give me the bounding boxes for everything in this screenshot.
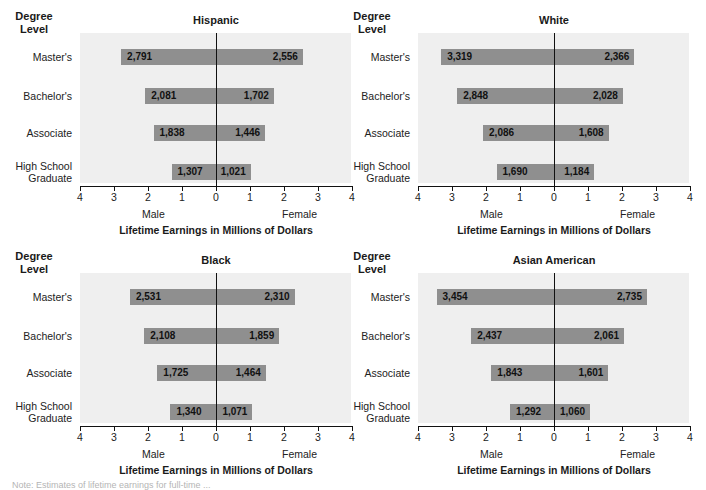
bar-male: 2,437 (471, 328, 554, 344)
category-label: Master's (0, 51, 72, 64)
x-tick-label: 0 (544, 431, 564, 443)
bar-male: 3,319 (441, 49, 554, 65)
panel-title: Black (156, 254, 276, 266)
x-tick-label: 0 (206, 431, 226, 443)
x-tick-label: 1 (172, 191, 192, 203)
x-tick-label: 1 (240, 191, 260, 203)
zero-line (216, 273, 217, 427)
x-tick-label: 1 (240, 431, 260, 443)
x-axis-title: Lifetime Earnings in Millions of Dollars (424, 224, 684, 236)
category-label-line: Associate (0, 367, 72, 380)
bar-female: 1,060 (554, 404, 590, 420)
male-label: Male (480, 208, 503, 220)
category-label: High SchoolGraduate (0, 160, 72, 185)
category-label-line: Bachelor's (0, 90, 72, 103)
bar-male: 2,081 (145, 88, 216, 104)
category-label: Associate (338, 127, 410, 140)
bar-female: 2,028 (554, 88, 623, 104)
category-label: Bachelor's (338, 330, 410, 343)
x-tick-label: 3 (104, 191, 124, 203)
category-label: Master's (338, 51, 410, 64)
category-label-line: Associate (338, 367, 410, 380)
category-label-line: Graduate (0, 172, 72, 185)
bar-male: 1,838 (154, 125, 216, 141)
value-label-female: 1,060 (560, 404, 585, 420)
value-label-male: 2,086 (489, 125, 514, 141)
bar-male: 1,690 (497, 164, 554, 180)
chart-panel-white: DegreeLevelWhiteMaster'sBachelor'sAssoci… (338, 0, 691, 235)
category-label: Associate (0, 127, 72, 140)
y-axis-title-line: Degree (350, 250, 394, 263)
x-tick-label: 1 (578, 431, 598, 443)
x-tick-label: 1 (172, 431, 192, 443)
x-axis-title: Lifetime Earnings in Millions of Dollars (86, 464, 346, 476)
bar-female: 2,556 (216, 49, 303, 65)
value-label-male: 1,690 (503, 164, 528, 180)
bar-female: 1,446 (216, 125, 265, 141)
value-label-female: 2,735 (617, 289, 642, 305)
category-label-line: Master's (338, 291, 410, 304)
value-label-female: 1,608 (579, 125, 604, 141)
bar-female: 1,184 (554, 164, 594, 180)
value-label-male: 1,843 (497, 365, 522, 381)
value-label-female: 2,556 (273, 49, 298, 65)
y-axis-title-line: Degree (12, 250, 56, 263)
value-label-female: 1,021 (221, 164, 246, 180)
value-label-female: 2,366 (604, 49, 629, 65)
category-label: Master's (338, 291, 410, 304)
category-label: Bachelor's (0, 90, 72, 103)
bar-female: 1,859 (216, 328, 279, 344)
panel-title: White (494, 14, 614, 26)
bar-male: 1,292 (510, 404, 554, 420)
category-label-line: Bachelor's (0, 330, 72, 343)
value-label-male: 2,531 (136, 289, 161, 305)
zero-line (216, 33, 217, 187)
x-tick-label: 0 (544, 191, 564, 203)
bar-male: 2,086 (483, 125, 554, 141)
bar-male: 2,848 (457, 88, 554, 104)
panel-title: Asian American (494, 254, 614, 266)
x-tick-label: 3 (646, 431, 666, 443)
zero-line (554, 33, 555, 187)
y-axis-title-line: Level (350, 23, 394, 36)
category-label: High SchoolGraduate (338, 160, 410, 185)
female-label: Female (620, 448, 655, 460)
y-axis-title: DegreeLevel (12, 10, 56, 36)
bar-female: 2,735 (554, 289, 647, 305)
value-label-male: 2,791 (127, 49, 152, 65)
category-label: Bachelor's (338, 90, 410, 103)
x-tick-label: 3 (104, 431, 124, 443)
x-tick-label: 4 (408, 191, 428, 203)
male-label: Male (142, 208, 165, 220)
x-tick-label: 2 (274, 191, 294, 203)
zero-line (554, 273, 555, 427)
x-tick-label: 1 (578, 191, 598, 203)
bar-male: 2,108 (144, 328, 216, 344)
bar-female: 1,702 (216, 88, 274, 104)
x-tick-label: 3 (308, 431, 328, 443)
value-label-female: 1,859 (249, 328, 274, 344)
x-tick-label: 3 (442, 191, 462, 203)
value-label-female: 1,464 (236, 365, 261, 381)
y-axis-title: DegreeLevel (350, 10, 394, 36)
female-label: Female (282, 448, 317, 460)
chart-panel-asian-american: DegreeLevelAsian AmericanMaster'sBachelo… (338, 240, 691, 475)
value-label-male: 1,340 (176, 404, 201, 420)
x-tick-label: 3 (646, 191, 666, 203)
value-label-female: 2,028 (593, 88, 618, 104)
value-label-female: 2,310 (265, 289, 290, 305)
y-axis-title-line: Degree (350, 10, 394, 23)
y-axis-title-line: Level (350, 263, 394, 276)
y-axis-title-line: Degree (12, 10, 56, 23)
category-label: High SchoolGraduate (338, 400, 410, 425)
bar-male: 1,725 (157, 365, 216, 381)
category-label-line: Graduate (338, 412, 410, 425)
bar-male: 1,843 (491, 365, 554, 381)
chart-panel-black: DegreeLevelBlackMaster'sBachelor'sAssoci… (0, 240, 353, 475)
bar-female: 2,310 (216, 289, 295, 305)
x-tick-label: 4 (408, 431, 428, 443)
category-label-line: Associate (0, 127, 72, 140)
category-label: Master's (0, 291, 72, 304)
category-label-line: Master's (0, 51, 72, 64)
bar-male: 1,307 (172, 164, 216, 180)
